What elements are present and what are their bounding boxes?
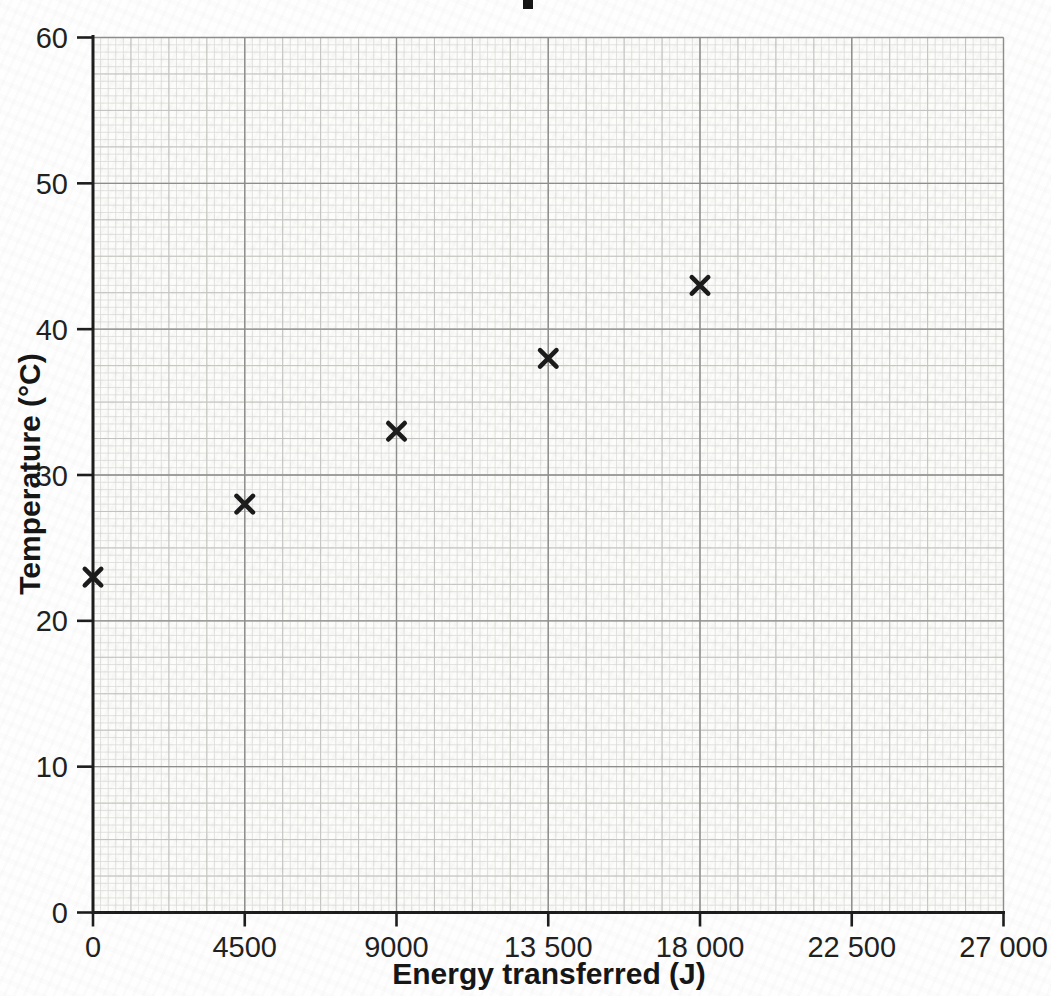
x-tick-label: 4500 [212,931,277,963]
y-tick-label: 50 [36,168,68,200]
y-tick-label: 60 [36,22,68,54]
x-tick-label: 22 500 [807,931,896,963]
y-tick-label: 10 [36,751,68,783]
y-tick-label: 20 [36,605,68,637]
x-axis-title: Energy transferred (J) [392,957,705,991]
scanned-graph-page: 04500900013 50018 00022 50027 0000102030… [0,0,1051,996]
y-tick-label: 40 [36,314,68,346]
temperature-vs-energy-scatter-chart: 04500900013 50018 00022 50027 0000102030… [0,0,1051,996]
x-tick-label: 0 [85,931,101,963]
y-tick-label: 0 [52,897,68,929]
x-tick-label: 27 000 [959,931,1048,963]
y-axis-title: Temperature (°C) [13,353,47,594]
